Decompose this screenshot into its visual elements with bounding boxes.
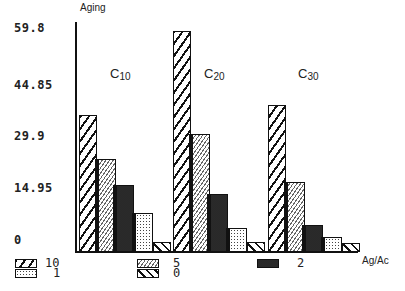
bar-c30-1 [324, 237, 342, 252]
bar-c20-1 [229, 228, 247, 252]
bar-c20-0 [247, 242, 265, 252]
y-tick-29.9: 29.9 [14, 129, 45, 143]
bar-c10-1 [135, 213, 153, 252]
legend-item-0: 0 [137, 266, 180, 280]
group-label-c20: C20 [204, 66, 225, 82]
bar-c30-0 [342, 243, 360, 252]
group-label-c30: C30 [298, 66, 319, 82]
legend-swatch-1 [15, 269, 37, 278]
bar-chart: Aging 59.8 44.85 29.9 14.95 0 C10 C20 C3… [0, 0, 405, 291]
y-axis [75, 22, 77, 253]
x-axis-label: Ag/Ac [362, 255, 389, 266]
legend-item-2: 2 [257, 256, 304, 270]
y-tick-14.95: 14.95 [14, 181, 53, 195]
y-tick-0: 0 [14, 233, 22, 247]
legend-item-1: 1 [15, 266, 60, 280]
y-tick-59.8: 59.8 [14, 21, 45, 35]
y-tick-44.85: 44.85 [14, 78, 53, 92]
y-axis-label: Aging [80, 2, 106, 13]
legend-swatch-2 [257, 259, 279, 268]
bar-c10-0 [153, 242, 171, 252]
legend-swatch-0 [137, 269, 159, 278]
group-label-c10: C10 [110, 66, 131, 82]
